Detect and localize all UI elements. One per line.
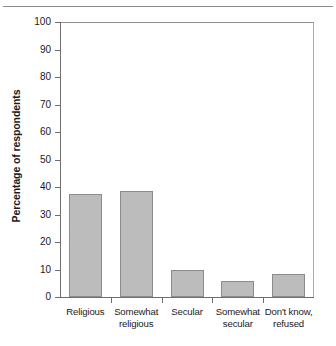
y-tick-label: 30	[0, 209, 51, 220]
x-axis-label-line: religious	[111, 318, 162, 330]
top-divider-rule	[3, 6, 333, 7]
y-tick-mark	[55, 160, 60, 161]
x-axis-label-line: Don't know,	[263, 306, 314, 318]
y-tick-label: 20	[0, 236, 51, 247]
y-tick-mark	[55, 22, 60, 23]
x-axis-label: Don't know,refused	[263, 306, 314, 329]
y-tick-label: 0	[0, 291, 51, 302]
x-tick-mark	[162, 298, 163, 303]
x-axis-label-line: Somewhat	[111, 306, 162, 318]
x-axis-label: Secular	[162, 306, 213, 318]
y-tick-mark	[55, 50, 60, 51]
y-tick-label: 70	[0, 99, 51, 110]
bar	[69, 194, 102, 297]
y-tick-label: 80	[0, 71, 51, 82]
y-tick-label: 50	[0, 154, 51, 165]
y-tick-mark	[55, 215, 60, 216]
y-tick-mark	[55, 77, 60, 78]
x-axis-line	[60, 297, 314, 298]
x-axis-label-line: Somewhat	[212, 306, 263, 318]
x-axis-label-line: Religious	[60, 306, 111, 318]
x-axis-label: Somewhatreligious	[111, 306, 162, 329]
bar	[221, 281, 254, 298]
x-axis-label-line: Secular	[162, 306, 213, 318]
x-axis-label: Somewhatsecular	[212, 306, 263, 329]
y-tick-label: 40	[0, 181, 51, 192]
y-tick-mark	[55, 242, 60, 243]
y-tick-label: 60	[0, 126, 51, 137]
y-tick-mark	[55, 132, 60, 133]
y-axis-line	[60, 22, 61, 298]
y-tick-mark	[55, 297, 60, 298]
bar	[272, 274, 305, 297]
x-axis-label-line: secular	[212, 318, 263, 330]
x-tick-mark	[212, 298, 213, 303]
y-tick-mark	[55, 270, 60, 271]
bar	[171, 270, 204, 298]
y-tick-label: 100	[0, 16, 51, 27]
bar-chart-figure: Percentage of respondents 01020304050607…	[0, 0, 336, 346]
x-tick-mark	[111, 298, 112, 303]
x-axis-label: Religious	[60, 306, 111, 318]
y-tick-mark	[55, 187, 60, 188]
y-tick-label: 90	[0, 44, 51, 55]
x-tick-mark	[263, 298, 264, 303]
y-tick-label: 10	[0, 264, 51, 275]
x-axis-label-line: refused	[263, 318, 314, 330]
bar	[120, 191, 153, 297]
y-tick-mark	[55, 105, 60, 106]
